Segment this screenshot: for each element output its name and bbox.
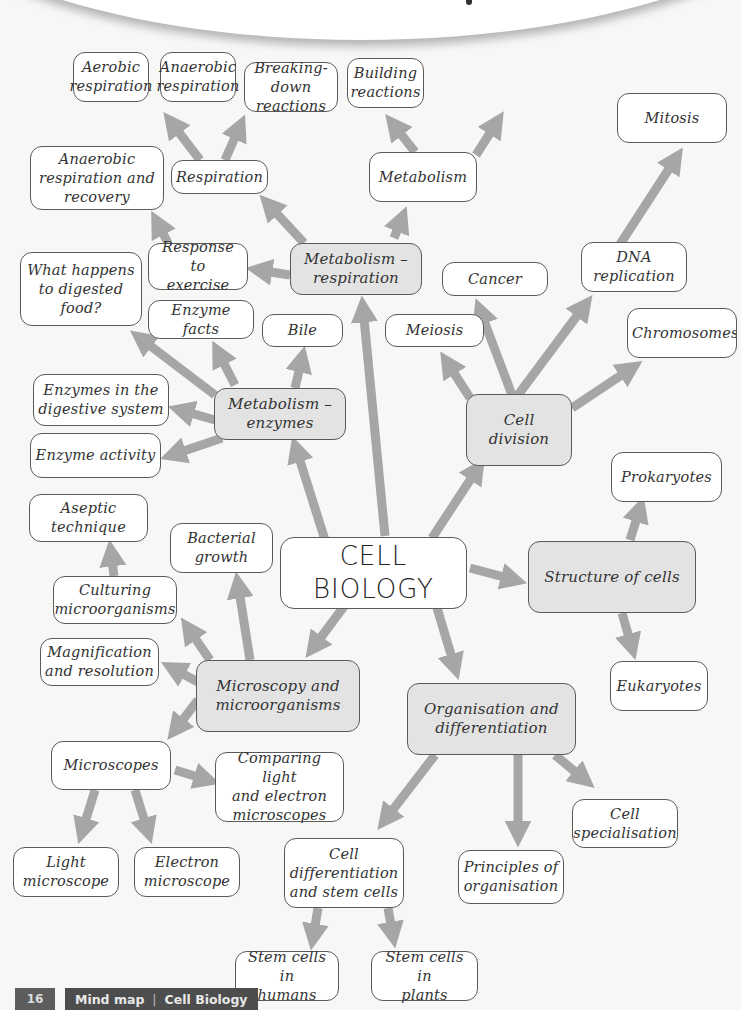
- hub-structure-of-cells: Structure of cells: [528, 541, 696, 613]
- node-respiration: Respiration: [171, 160, 268, 194]
- node-microscopes: Microscopes: [51, 741, 171, 790]
- node-chromosomes: Chromosomes: [627, 308, 737, 358]
- node-enzyme-facts: Enzyme facts: [148, 300, 254, 339]
- node-electron-microscope: Electron microscope: [134, 847, 240, 897]
- node-comparing-light-electron: Comparing light and electron microscopes: [215, 752, 344, 822]
- node-bacterial-growth: Bacterial growth: [170, 523, 273, 573]
- footer-title: Mind map | Cell Biology: [65, 988, 258, 1010]
- node-breaking-down-reactions: Breaking-down reactions: [244, 62, 338, 112]
- node-aerobic-respiration: Aerobic respiration: [73, 52, 149, 102]
- node-magnification-resolution: Magnification and resolution: [40, 638, 159, 686]
- node-eukaryotes: Eukaryotes: [610, 661, 708, 711]
- node-cell-specialisation: Cell specialisation: [572, 799, 678, 848]
- node-stem-cells-plants: Stem cells in plants: [371, 951, 478, 1001]
- footer-topic: Cell Biology: [165, 992, 248, 1007]
- node-building-reactions: Building reactions: [347, 58, 424, 108]
- node-prokaryotes: Prokaryotes: [611, 452, 722, 502]
- hub-microscopy-microorganisms: Microscopy and microorganisms: [196, 660, 360, 732]
- node-bile: Bile: [262, 314, 343, 347]
- node-aseptic-technique: Aseptic technique: [29, 494, 148, 542]
- node-anaerobic-respiration: Anaerobic respiration: [160, 52, 236, 102]
- node-principles-of-organisation: Principles of organisation: [458, 850, 564, 904]
- node-enzyme-activity: Enzyme activity: [30, 433, 161, 478]
- hub-metabolism-respiration: Metabolism – respiration: [290, 243, 422, 295]
- center-node-cell-biology: CELL BIOLOGY: [280, 537, 467, 609]
- hub-cell-division: Cell division: [466, 394, 572, 466]
- node-what-happens-to-digested-food: What happens to digested food?: [20, 252, 142, 326]
- node-dna-replication: DNA replication: [581, 242, 687, 292]
- node-culturing-microorganisms: Culturing microorganisms: [53, 576, 177, 624]
- footer-section: Mind map: [75, 992, 144, 1007]
- node-light-microscope: Light microscope: [13, 847, 119, 897]
- page-number: 16: [15, 988, 55, 1010]
- footer-separator: |: [152, 992, 156, 1007]
- node-mitosis: Mitosis: [617, 93, 727, 143]
- node-metabolism: Metabolism: [369, 152, 477, 202]
- hub-organisation-differentiation: Organisation and differentiation: [407, 683, 576, 755]
- node-cancer: Cancer: [442, 262, 548, 296]
- hub-metabolism-enzymes: Metabolism – enzymes: [214, 388, 346, 440]
- page-footer: 16 Mind map | Cell Biology: [15, 988, 258, 1010]
- node-enzymes-in-digestive-system: Enzymes in the digestive system: [33, 374, 169, 426]
- node-response-to-exercise: Response to exercise: [148, 243, 248, 290]
- node-anaerobic-recovery: Anaerobic respiration and recovery: [30, 146, 164, 210]
- node-meiosis: Meiosis: [385, 314, 484, 347]
- node-cell-differentiation: Cell differentiation and stem cells: [284, 838, 404, 908]
